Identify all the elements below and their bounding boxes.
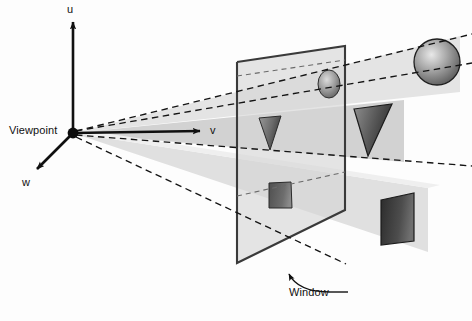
- window-label: Window: [289, 286, 329, 298]
- square-far: [381, 193, 414, 245]
- viewpoint-dot: [68, 128, 79, 139]
- viewpoint-label: Viewpoint: [9, 124, 57, 136]
- axis-w-label: w: [22, 176, 30, 188]
- square-projected: [269, 182, 292, 208]
- axis-v-label: v: [210, 124, 216, 136]
- axis-w: [37, 133, 73, 169]
- viewing-frustum-diagram: Viewpoint u v w Window: [0, 0, 472, 321]
- diagram-canvas: [0, 0, 472, 321]
- sphere-projected: [318, 70, 340, 98]
- axis-u-label: u: [67, 3, 73, 15]
